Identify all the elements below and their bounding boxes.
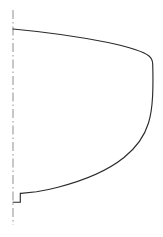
hull-section-canvas	[0, 0, 163, 237]
hull-section-figure	[0, 0, 163, 237]
figure-background	[0, 0, 163, 237]
